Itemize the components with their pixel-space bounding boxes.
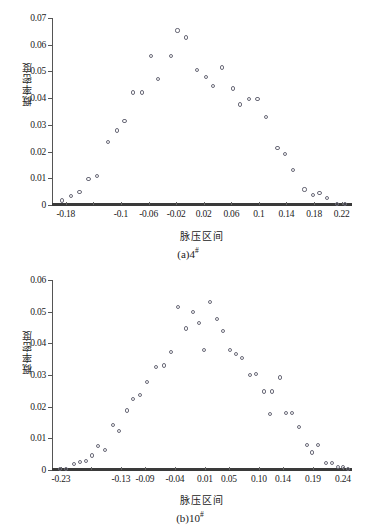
y-tick-label-a-0: 0: [41, 200, 46, 210]
data-point: [69, 194, 73, 198]
data-point: [84, 459, 88, 463]
data-point: [58, 467, 62, 471]
data-point: [154, 365, 158, 369]
x-tick-label-b-9: 0.19: [305, 474, 321, 484]
y-tick-b-3: [48, 375, 52, 376]
y-tick-label-a-7: 0.07: [30, 13, 46, 23]
data-point: [255, 97, 259, 101]
scatter-plot-a: 00.010.020.030.040.050.060.07-0.18-0.1-0…: [52, 18, 352, 205]
data-point: [195, 68, 199, 72]
y-tick-a-4: [48, 98, 52, 99]
x-tick-a-8: [286, 202, 287, 205]
data-point: [60, 198, 64, 202]
data-point: [106, 140, 110, 144]
x-tick-label-b-7: 0.10: [251, 474, 267, 484]
data-point: [95, 174, 99, 178]
data-point: [191, 310, 195, 314]
data-point: [96, 444, 100, 448]
data-point: [117, 429, 121, 433]
data-point: [169, 54, 173, 58]
zero-baseline-series-b: [52, 468, 352, 471]
y-tick-b-4: [48, 343, 52, 344]
data-point: [254, 372, 258, 376]
x-tick-a-6: [231, 202, 232, 205]
x-tick-label-a-3: -0.06: [139, 209, 158, 219]
y-tick-label-a-3: 0.03: [30, 120, 46, 130]
data-point: [221, 329, 225, 333]
y-tick-label-a-1: 0.01: [30, 173, 46, 183]
x-tick-a-0: [66, 202, 67, 205]
data-point: [140, 90, 144, 94]
x-tick-b-4: [175, 467, 176, 470]
data-point: [262, 389, 266, 393]
x-tick-label-b-3: -0.09: [136, 474, 155, 484]
x-tick-b-9: [313, 467, 314, 470]
x-tick-label-b-6: 0.05: [221, 474, 237, 484]
x-tick-b-7: [259, 467, 260, 470]
data-point: [283, 152, 287, 156]
data-point: [78, 460, 82, 464]
x-tick-label-b-2: -0.13: [112, 474, 131, 484]
y-tick-b-0: [48, 470, 52, 471]
x-tick-label-a-10: 0.22: [334, 209, 350, 219]
data-point: [202, 348, 206, 352]
data-point: [184, 326, 188, 330]
data-point: [231, 86, 235, 90]
data-point: [208, 300, 212, 304]
data-point: [86, 177, 90, 181]
data-point: [197, 321, 201, 325]
figure-root: 00.010.020.030.040.050.060.07-0.18-0.1-0…: [0, 0, 376, 527]
x-tick-label-a-8: 0.14: [279, 209, 295, 219]
y-tick-a-1: [48, 178, 52, 179]
x-tick-b-2: [121, 467, 122, 470]
data-point: [72, 462, 76, 466]
data-point: [316, 443, 320, 447]
y-tick-a-2: [48, 152, 52, 153]
x-tick-a-1: [93, 202, 94, 205]
data-point: [311, 193, 315, 197]
data-point: [284, 411, 288, 415]
panel-caption-b-text: (b)10: [176, 512, 200, 524]
y-tick-a-6: [48, 45, 52, 46]
zero-baseline-series-a: [52, 203, 352, 206]
data-point: [149, 54, 153, 58]
x-axis-title-a: 脉压区间: [180, 228, 224, 243]
x-tick-label-a-2: -0.1: [114, 209, 128, 219]
scatter-plot-b: 00.010.020.030.040.050.06-0.23-0.13-0.09…: [52, 280, 352, 470]
y-tick-a-0: [48, 205, 52, 206]
data-point: [247, 97, 251, 101]
data-point: [240, 356, 244, 360]
y-tick-label-a-2: 0.02: [30, 147, 46, 157]
data-point: [103, 448, 107, 452]
y-tick-a-3: [48, 125, 52, 126]
data-point: [324, 461, 328, 465]
x-tick-b-3: [145, 467, 146, 470]
x-tick-a-5: [204, 202, 205, 205]
data-point: [264, 115, 268, 119]
data-point: [175, 28, 179, 32]
y-tick-b-1: [48, 438, 52, 439]
x-tick-b-6: [229, 467, 230, 470]
data-point: [156, 77, 160, 81]
y-tick-b-2: [48, 407, 52, 408]
data-point: [302, 187, 306, 191]
y-tick-label-b-5: 0.05: [30, 307, 46, 317]
data-point: [111, 423, 115, 427]
x-tick-a-7: [259, 202, 260, 205]
x-tick-label-b-8: 0.14: [275, 474, 291, 484]
y-axis-line-a: [52, 18, 53, 205]
x-tick-a-4: [176, 202, 177, 205]
data-point: [248, 373, 252, 377]
data-point: [122, 119, 126, 123]
data-point: [176, 305, 180, 309]
data-point: [291, 168, 295, 172]
data-point: [330, 461, 334, 465]
x-tick-label-a-4: -0.02: [167, 209, 186, 219]
x-tick-label-a-7: 0.1: [253, 209, 264, 219]
data-point: [234, 352, 238, 356]
data-point: [297, 425, 301, 429]
data-point: [278, 375, 282, 379]
panel-caption-a-sup: #: [195, 246, 199, 255]
data-point: [341, 465, 345, 469]
x-tick-a-9: [314, 202, 315, 205]
